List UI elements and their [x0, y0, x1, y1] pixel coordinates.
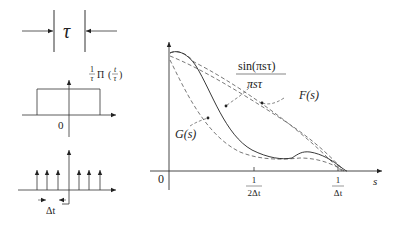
G-label: G(s)	[175, 127, 196, 141]
rect-pulse-label: 1 τ Π ( t τ )	[89, 65, 122, 83]
tick-label-full: 1 Δt	[332, 175, 344, 198]
svg-text:(: (	[108, 69, 112, 81]
svg-text:2Δt: 2Δt	[248, 188, 261, 198]
svg-text:t: t	[114, 65, 117, 74]
sinc-label: sin(πsτ) πsτ	[236, 59, 286, 91]
x-axis-label: s	[373, 175, 377, 187]
delta-t-label: Δt	[46, 205, 55, 216]
svg-text:πsτ: πsτ	[247, 77, 263, 91]
svg-text:1: 1	[336, 175, 341, 185]
rect-pulse-plot	[22, 80, 116, 137]
impulse-train-plot	[18, 150, 116, 204]
svg-text:Δt: Δt	[334, 188, 343, 198]
svg-text:sin(πsτ): sin(πsτ)	[238, 59, 276, 73]
svg-text:1: 1	[252, 175, 257, 185]
F-label: F(s)	[298, 88, 319, 102]
svg-text:τ: τ	[114, 74, 118, 83]
tau-label: τ	[63, 20, 71, 42]
svg-text:1: 1	[90, 65, 94, 74]
figure-canvas: τ 1 τ Π ( t τ ) 0 Δt	[0, 0, 399, 227]
tick-label-half: 1 2Δt	[246, 175, 262, 198]
svg-text:): )	[119, 69, 122, 81]
svg-text:τ: τ	[91, 74, 95, 83]
chart-origin-label: 0	[158, 172, 164, 186]
rect-origin-label: 0	[58, 119, 64, 131]
svg-text:Π: Π	[97, 69, 104, 80]
